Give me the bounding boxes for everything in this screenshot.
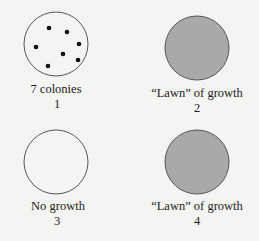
petri-plates-diagram: 7 colonies 1 “Lawn” of growth 2 No growt… (0, 0, 259, 241)
plate-4-number: 4 (194, 214, 201, 228)
colony-dot (46, 64, 51, 69)
colony-dot (76, 58, 81, 63)
plate-4: “Lawn” of growth 4 (151, 130, 243, 228)
plate-3-number: 3 (54, 214, 60, 228)
plate-2: “Lawn” of growth 2 (151, 16, 243, 115)
colony-dot (65, 30, 70, 35)
plate-3-dish (24, 130, 88, 194)
colony-dot (47, 26, 52, 31)
plate-2-caption: “Lawn” of growth (151, 86, 243, 100)
plate-4-caption: “Lawn” of growth (151, 199, 243, 213)
plate-3-caption: No growth (31, 199, 86, 213)
colonies (34, 26, 82, 69)
plate-2-dish-lawn (165, 16, 229, 80)
plate-2-number: 2 (194, 101, 200, 115)
plate-1-number: 1 (54, 97, 60, 111)
colony-dot (34, 45, 39, 50)
plate-1-caption: 7 colonies (30, 82, 81, 96)
plate-1: 7 colonies 1 (24, 12, 88, 111)
plate-3: No growth 3 (24, 130, 88, 228)
colony-dot (61, 52, 66, 57)
plate-4-dish-lawn (165, 130, 229, 194)
colony-dot (77, 42, 82, 47)
